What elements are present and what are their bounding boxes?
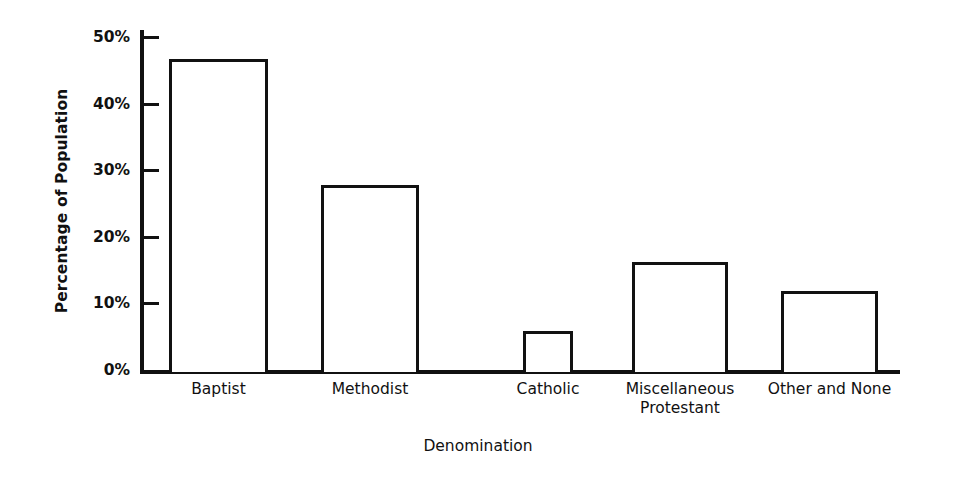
y-tick-label-wrap: 20%	[72, 228, 130, 246]
bar-chart: Percentage of Population 0%10%20%30%40%5…	[0, 0, 956, 483]
y-tick-label-wrap: 10%	[72, 294, 130, 312]
y-tick-label-wrap: 30%	[72, 161, 130, 179]
y-tick-label-wrap: 40%	[72, 95, 130, 113]
bar	[321, 185, 419, 372]
y-tick-label: 0%	[72, 361, 130, 379]
y-tick-mark	[144, 36, 159, 39]
y-axis-title: Percentage of Population	[53, 71, 71, 331]
y-tick-mark	[144, 103, 159, 106]
y-tick-label: 30%	[72, 161, 130, 179]
y-tick-label: 10%	[72, 294, 130, 312]
y-tick-label: 20%	[72, 228, 130, 246]
y-tick-mark	[144, 302, 159, 305]
y-tick-label-wrap: 0%	[72, 361, 130, 379]
y-tick-label: 50%	[72, 28, 130, 46]
y-tick-label-wrap: 50%	[72, 28, 130, 46]
y-tick-label: 40%	[72, 95, 130, 113]
bar	[523, 331, 573, 372]
y-axis-line	[140, 30, 144, 374]
bar	[632, 262, 728, 372]
bar	[781, 291, 878, 372]
x-tick-label: Other and None	[740, 380, 920, 399]
y-tick-mark	[144, 169, 159, 172]
x-tick-label: Methodist	[280, 380, 460, 399]
bar	[169, 59, 268, 372]
y-tick-mark	[144, 236, 159, 239]
x-axis-title: Denomination	[0, 437, 956, 455]
